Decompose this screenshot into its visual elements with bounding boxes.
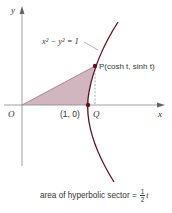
point-Q-label: Q bbox=[93, 109, 100, 119]
x-axis-label: x bbox=[157, 109, 162, 119]
fraction-denominator: 2 bbox=[141, 196, 145, 203]
fraction-numerator: 1 bbox=[140, 188, 146, 196]
point-Q-marker bbox=[86, 103, 90, 107]
hyperbolic-sector-diagram: y x O x² − y² = 1 P(cosh t, sinh t) (1, … bbox=[0, 0, 172, 213]
point-P-marker bbox=[93, 64, 97, 68]
x-axis-arrow-icon bbox=[157, 103, 165, 108]
diagram-canvas: y x O x² − y² = 1 P(cosh t, sinh t) (1, … bbox=[0, 0, 172, 213]
y-axis-label: y bbox=[10, 5, 15, 15]
equation-leader-line bbox=[84, 42, 98, 50]
one-half-fraction: 1 2 bbox=[140, 188, 146, 203]
equation-label: x² − y² = 1 bbox=[41, 36, 79, 46]
point-Q-coord-label: (1, 0) bbox=[60, 109, 80, 119]
origin-label: O bbox=[8, 109, 15, 119]
sector-area-caption: area of hyperbolic sector = 1 2 t bbox=[40, 188, 170, 203]
y-axis-arrow-icon bbox=[20, 6, 25, 14]
caption-text: area of hyperbolic sector = bbox=[40, 191, 137, 200]
point-P-label: P(cosh t, sinh t) bbox=[99, 62, 155, 71]
caption-variable: t bbox=[146, 191, 148, 200]
hyperbola-curve bbox=[88, 22, 119, 182]
